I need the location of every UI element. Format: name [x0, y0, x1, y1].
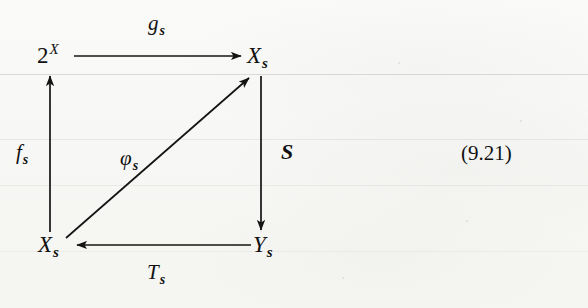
node-top-right-Xs: Xs [247, 44, 267, 67]
edge-label-base: φ [120, 146, 132, 170]
node-superscript: X [50, 41, 59, 57]
edge-label-T-s: Ts [147, 262, 164, 283]
edge-label-subscript: s [160, 272, 165, 287]
node-bottom-left-Xs: Xs [38, 233, 58, 256]
edge-label-base: f [16, 140, 22, 164]
node-base: X [247, 43, 261, 68]
node-bottom-right-Ys: Ys [253, 233, 272, 256]
node-base: X [38, 232, 52, 257]
scanned-page: X_s (g_s) --> 2^X (f_s) --> Y_s (S) --> … [0, 0, 588, 308]
edge-label-S: S [281, 141, 293, 163]
edge-label-subscript: s [160, 23, 165, 38]
edge-label-g-s: gs [148, 13, 164, 34]
edge-label-subscript: s [23, 152, 28, 167]
node-subscript: s [53, 244, 59, 260]
node-top-left-2-power-X: 2X [37, 44, 58, 67]
equation-number: (9.21) [461, 143, 512, 164]
edge-label-f-s: fs [16, 142, 27, 163]
edge-label-base: S [281, 139, 293, 164]
edge-label-phi-s: φs [120, 148, 137, 169]
node-subscript: s [267, 244, 273, 260]
edge-label-base: T [147, 260, 159, 284]
node-base: Y [253, 232, 266, 257]
node-subscript: s [262, 55, 268, 71]
edge-label-subscript: s [133, 158, 138, 173]
arrow-diagonal-phi [66, 78, 249, 238]
edge-label-base: g [148, 11, 159, 35]
node-base: 2 [37, 43, 49, 68]
